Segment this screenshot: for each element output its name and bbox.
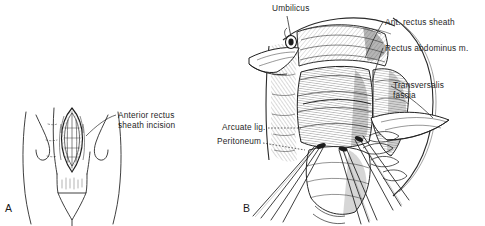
panel-b-illustration (243, 0, 485, 226)
label-umbilicus: Umbilicus (272, 4, 309, 14)
label-arcuate-ligament: Arcuate lig. (222, 123, 266, 133)
leader-line-anterior-rectus (86, 115, 116, 136)
label-line-2: sheath incision (118, 120, 175, 130)
anatomical-figure: Anterior rectus sheath incision A (0, 0, 485, 226)
umbilicus-marker (285, 28, 297, 49)
label-transversalis-fascia: Transversalis fascia (393, 81, 444, 100)
incision-shape (60, 108, 85, 172)
label-rectus-abdominus: Rectus abdominus m. (385, 44, 468, 54)
label-line-1: Transversalis (393, 80, 444, 90)
label-line-2: fascia (393, 90, 416, 100)
label-anterior-rectus-sheath-incision: Anterior rectus sheath incision (118, 111, 175, 130)
label-line-1: Anterior rectus (118, 110, 174, 120)
retractor-blade-right (371, 112, 449, 140)
lower-organ (306, 147, 370, 224)
panel-b (243, 0, 485, 226)
panel-a: Anterior rectus sheath incision A (0, 0, 243, 226)
panel-letter-a: A (5, 202, 12, 214)
label-peritoneum: Peritoneum (217, 137, 261, 147)
panel-letter-b: B (243, 202, 250, 214)
label-ant-rectus-sheath: Ant. rectus sheath (385, 18, 455, 28)
rectus-abdominus-muscle (293, 60, 383, 156)
leader-line-umbilicus (287, 16, 291, 36)
